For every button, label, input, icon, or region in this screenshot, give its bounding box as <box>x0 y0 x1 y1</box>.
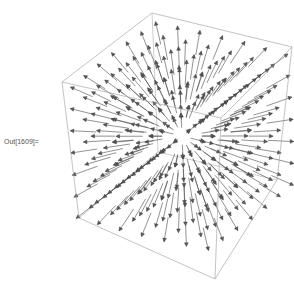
vector-arrows <box>70 22 294 251</box>
vector-field-3d-plot[interactable] <box>0 0 294 291</box>
